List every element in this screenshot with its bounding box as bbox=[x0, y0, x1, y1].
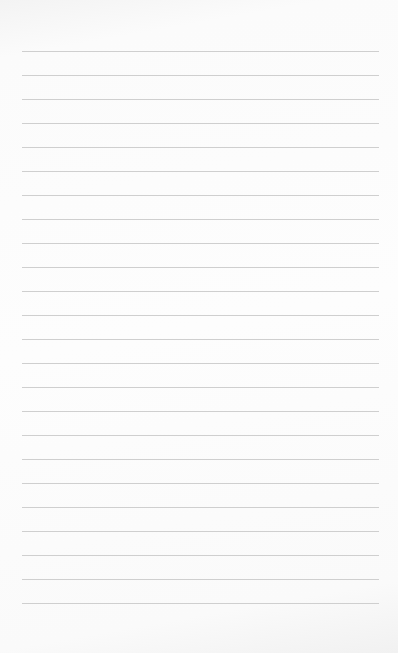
ruled-line bbox=[22, 291, 379, 292]
ruled-line bbox=[22, 147, 379, 148]
ruled-line bbox=[22, 579, 379, 580]
ruled-line bbox=[22, 123, 379, 124]
ruled-line bbox=[22, 75, 379, 76]
ruled-line bbox=[22, 339, 379, 340]
ruled-line bbox=[22, 51, 379, 52]
ruled-line bbox=[22, 195, 379, 196]
ruled-line bbox=[22, 435, 379, 436]
ruled-line bbox=[22, 411, 379, 412]
ruled-line bbox=[22, 387, 379, 388]
ruled-line bbox=[22, 363, 379, 364]
ruled-line bbox=[22, 243, 379, 244]
ruled-lines bbox=[22, 0, 379, 653]
ruled-line bbox=[22, 267, 379, 268]
ruled-line bbox=[22, 171, 379, 172]
ruled-line bbox=[22, 507, 379, 508]
ruled-line bbox=[22, 459, 379, 460]
ruled-line bbox=[22, 99, 379, 100]
ruled-line bbox=[22, 531, 379, 532]
ruled-line bbox=[22, 219, 379, 220]
lined-paper-page bbox=[0, 0, 398, 653]
ruled-line bbox=[22, 555, 379, 556]
ruled-line bbox=[22, 315, 379, 316]
ruled-line bbox=[22, 603, 379, 604]
ruled-line bbox=[22, 483, 379, 484]
